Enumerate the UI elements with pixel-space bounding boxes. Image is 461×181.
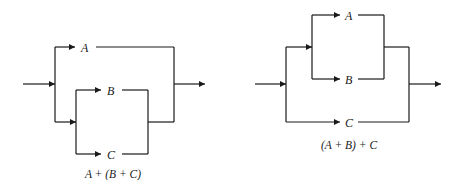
reliability-diagrams: A B C A + (B + C) A B C — [0, 0, 461, 180]
label-b: B — [345, 73, 353, 87]
caption-left: A + (B + C) — [84, 168, 141, 180]
label-c: C — [345, 116, 354, 130]
label-a: A — [80, 41, 89, 55]
label-b: B — [107, 84, 115, 98]
label-c: C — [107, 148, 116, 162]
diagram-right: A B C (A + B) + C — [255, 9, 441, 153]
label-a: A — [344, 9, 353, 23]
diagram-left: A B C A + (B + C) — [23, 41, 205, 181]
caption-right: (A + B) + C — [321, 139, 378, 152]
